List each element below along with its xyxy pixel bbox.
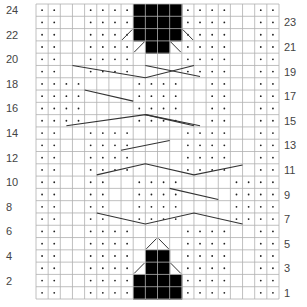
purl-dot-icon bbox=[102, 169, 104, 171]
no-stitch-cell bbox=[145, 250, 158, 263]
purl-dot-icon bbox=[199, 230, 201, 232]
no-stitch-cell bbox=[158, 262, 171, 275]
purl-dot-icon bbox=[199, 132, 201, 134]
purl-dot-icon bbox=[260, 280, 262, 282]
purl-dot-icon bbox=[53, 255, 55, 257]
purl-dot-icon bbox=[53, 206, 55, 208]
purl-dot-icon bbox=[223, 34, 225, 36]
no-stitch-cell bbox=[170, 16, 183, 29]
purl-dot-icon bbox=[90, 230, 92, 232]
purl-dot-icon bbox=[272, 46, 274, 48]
purl-dot-icon bbox=[102, 181, 104, 183]
purl-dot-icon bbox=[236, 206, 238, 208]
purl-dot-icon bbox=[126, 169, 128, 171]
row-number-label: 15 bbox=[284, 115, 304, 127]
purl-dot-icon bbox=[236, 194, 238, 196]
purl-dot-icon bbox=[272, 243, 274, 245]
purl-dot-icon bbox=[90, 169, 92, 171]
purl-dot-icon bbox=[272, 157, 274, 159]
purl-dot-icon bbox=[151, 83, 153, 85]
decrease-icon bbox=[171, 263, 181, 273]
purl-dot-icon bbox=[248, 218, 250, 220]
purl-dot-icon bbox=[187, 280, 189, 282]
purl-dot-icon bbox=[199, 46, 201, 48]
purl-dot-icon bbox=[223, 58, 225, 60]
purl-dot-icon bbox=[199, 71, 201, 73]
decrease-icon bbox=[134, 263, 144, 273]
purl-dot-icon bbox=[126, 9, 128, 11]
purl-dot-icon bbox=[260, 71, 262, 73]
purl-dot-icon bbox=[90, 46, 92, 48]
purl-dot-icon bbox=[199, 255, 201, 257]
decrease-icon bbox=[146, 239, 156, 249]
purl-dot-icon bbox=[223, 132, 225, 134]
purl-dot-icon bbox=[248, 181, 250, 183]
purl-dot-icon bbox=[41, 206, 43, 208]
purl-dot-icon bbox=[41, 169, 43, 171]
purl-dot-icon bbox=[223, 280, 225, 282]
purl-dot-icon bbox=[114, 132, 116, 134]
row-number-label: 6 bbox=[6, 225, 30, 237]
purl-dot-icon bbox=[114, 230, 116, 232]
no-stitch-cell bbox=[158, 250, 171, 263]
purl-dot-icon bbox=[90, 206, 92, 208]
purl-dot-icon bbox=[78, 120, 80, 122]
purl-dot-icon bbox=[53, 22, 55, 24]
purl-dot-icon bbox=[102, 34, 104, 36]
purl-dot-icon bbox=[90, 34, 92, 36]
purl-dot-icon bbox=[199, 22, 201, 24]
purl-dot-icon bbox=[41, 9, 43, 11]
decrease-icon bbox=[171, 42, 181, 52]
purl-dot-icon bbox=[90, 132, 92, 134]
purl-dot-icon bbox=[211, 157, 213, 159]
no-stitch-cell bbox=[133, 4, 146, 17]
purl-dot-icon bbox=[102, 194, 104, 196]
chart-grid bbox=[0, 0, 307, 307]
purl-dot-icon bbox=[41, 22, 43, 24]
purl-dot-icon bbox=[53, 108, 55, 110]
purl-dot-icon bbox=[53, 34, 55, 36]
purl-dot-icon bbox=[211, 83, 213, 85]
purl-dot-icon bbox=[163, 83, 165, 85]
decrease-icon bbox=[159, 239, 169, 249]
purl-dot-icon bbox=[90, 267, 92, 269]
purl-dot-icon bbox=[151, 95, 153, 97]
purl-dot-icon bbox=[90, 292, 92, 294]
purl-dot-icon bbox=[272, 120, 274, 122]
purl-dot-icon bbox=[138, 218, 140, 220]
purl-dot-icon bbox=[187, 169, 189, 171]
purl-dot-icon bbox=[102, 206, 104, 208]
row-number-label: 17 bbox=[284, 90, 304, 102]
purl-dot-icon bbox=[102, 218, 104, 220]
purl-dot-icon bbox=[175, 218, 177, 220]
purl-dot-icon bbox=[41, 132, 43, 134]
purl-dot-icon bbox=[199, 292, 201, 294]
purl-dot-icon bbox=[211, 292, 213, 294]
purl-dot-icon bbox=[260, 243, 262, 245]
purl-dot-icon bbox=[126, 132, 128, 134]
purl-dot-icon bbox=[126, 22, 128, 24]
purl-dot-icon bbox=[53, 71, 55, 73]
purl-dot-icon bbox=[90, 157, 92, 159]
no-stitch-cell bbox=[145, 29, 158, 42]
no-stitch-cell bbox=[145, 41, 158, 54]
no-stitch-cell bbox=[145, 4, 158, 17]
purl-dot-icon bbox=[102, 255, 104, 257]
purl-dot-icon bbox=[187, 157, 189, 159]
no-stitch-cell bbox=[170, 4, 183, 17]
purl-dot-icon bbox=[260, 292, 262, 294]
purl-dot-icon bbox=[138, 108, 140, 110]
purl-dot-icon bbox=[187, 255, 189, 257]
purl-dot-icon bbox=[90, 71, 92, 73]
purl-dot-icon bbox=[223, 83, 225, 85]
no-stitch-cell bbox=[158, 16, 171, 29]
purl-dot-icon bbox=[114, 267, 116, 269]
purl-dot-icon bbox=[272, 169, 274, 171]
no-stitch-cell bbox=[158, 4, 171, 17]
purl-dot-icon bbox=[78, 108, 80, 110]
purl-dot-icon bbox=[223, 9, 225, 11]
purl-dot-icon bbox=[102, 9, 104, 11]
purl-dot-icon bbox=[260, 22, 262, 24]
purl-dot-icon bbox=[223, 46, 225, 48]
purl-dot-icon bbox=[248, 206, 250, 208]
